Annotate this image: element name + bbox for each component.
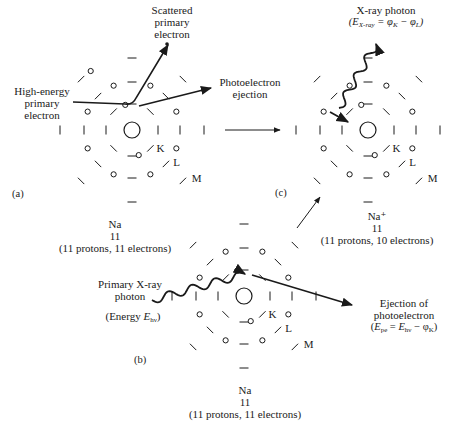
electron [85,109,90,114]
atom-caption-a: Na 11 (11 protons, 11 electrons) [52,218,178,254]
shell-label-M: M [192,172,202,184]
shell-label-K: K [156,142,164,154]
photoelectron-arrow-a [139,88,211,106]
electron [372,153,377,158]
label-photon-energy: (Energy Ehν) [100,310,166,326]
shell-tick [163,161,169,167]
electron [148,172,153,177]
electron [359,102,364,107]
electron [85,146,90,151]
label-high-energy-electron: High-energy primary electron [8,85,76,121]
electron [384,172,389,177]
atomic-number-c: 11 [314,222,440,234]
shell-tick [78,178,84,184]
shell-tick [222,274,228,280]
panel-tag-a: (a) [12,188,24,200]
electron [223,249,228,254]
composition-a: (11 protons, 11 electrons) [52,242,178,254]
electron [410,109,415,114]
shell-tick [292,344,298,350]
photoelectron-arrow-b [252,275,352,305]
electron-transition-arrow-c [330,112,348,122]
shell-tick [78,76,84,82]
scattered-electron-dot [165,42,169,46]
shell-label-K: K [392,142,400,154]
electron [136,153,141,158]
electron [197,312,202,317]
shell-tick [399,161,405,167]
electron [384,83,389,88]
atom-a: KLM [60,58,204,202]
element-symbol-b: Na [182,384,308,396]
electron [321,146,326,151]
electron [410,146,415,151]
electron [286,275,291,280]
label-ejection-photoelectron: Ejection of photoelectron (Epe = Ehν − φ… [362,297,446,336]
electron [148,83,153,88]
element-symbol-c: Na⁺ [314,210,440,222]
shell-tick [259,311,265,317]
shell-tick [222,311,228,317]
shell-tick [314,76,320,82]
electron [260,338,265,343]
shell-tick [207,259,213,265]
electron [197,275,202,280]
label-xray-photon-c: X-ray photon (EX-ray = φK − φL) [336,4,436,31]
electron [260,249,265,254]
shell-tick [95,93,101,99]
shell-tick [416,178,422,184]
shell-tick [292,242,298,248]
shell-tick [331,93,337,99]
atom-b: KLM [172,224,316,368]
shell-tick [147,108,153,114]
shell-tick [399,93,405,99]
composition-c: (11 protons, 10 electrons) [314,234,440,246]
element-symbol-a: Na [52,218,178,230]
shell-tick [207,327,213,333]
nucleus [236,288,252,304]
shell-tick [416,76,422,82]
shell-tick [147,145,153,151]
shell-tick [275,259,281,265]
electron [223,338,228,343]
formula-photoelectron-energy: (Epe = Ehν − φK) [362,321,446,336]
label-photoelectron-ejection: Photoelectron ejection [212,76,288,100]
electron [347,83,352,88]
shell-label-L: L [173,156,180,168]
shell-label-M: M [304,338,314,350]
shell-label-L: L [285,322,292,334]
shell-tick [190,242,196,248]
electron [88,68,93,73]
shell-label-M: M [428,172,438,184]
shell-tick [180,178,186,184]
shell-tick [190,344,196,350]
electron [111,83,116,88]
atom-caption-b: Na 11 (11 protons, 11 electrons) [182,384,308,420]
electron [321,109,326,114]
shell-label-K: K [268,308,276,320]
composition-b: (11 protons, 11 electrons) [182,408,308,420]
label-primary-xray-photon: Primary X-ray photon [92,278,168,302]
shell-tick [110,108,116,114]
shell-tick [346,145,352,151]
incoming-electron-path-a [73,45,168,104]
shell-tick [110,145,116,151]
xray-photon-wave-c [339,44,377,108]
shell-tick [383,145,389,151]
electron [347,172,352,177]
electron [248,319,253,324]
atom-caption-c: Na⁺ 11 (11 protons, 10 electrons) [314,210,440,246]
shell-tick [180,76,186,82]
shell-tick [275,327,281,333]
shell-label-L: L [409,156,416,168]
electron [174,146,179,151]
atomic-number-b: 11 [182,396,308,408]
electron [111,172,116,177]
nucleus [124,122,140,138]
label-scattered-electron: Scattered primary electron [136,4,208,40]
electron [286,312,291,317]
shell-tick [346,108,352,114]
shell-tick [331,161,337,167]
panel-tag-c: (c) [275,187,287,199]
formula-xray-energy: (EX-ray = φK − φL) [336,16,436,31]
